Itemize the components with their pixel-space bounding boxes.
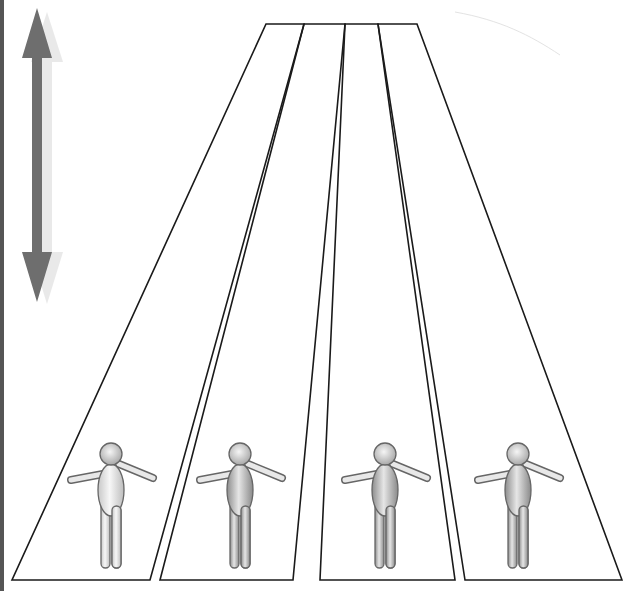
diagram-canvas [0,0,623,591]
lane-4 [378,24,622,580]
scan-mark [455,12,560,55]
figure-2-person-icon [200,443,282,568]
double-headed-arrow-icon [22,8,63,304]
figure-4-person-icon [478,443,560,568]
figure-3-person-icon [345,443,427,568]
figure-1-person-icon [71,443,153,568]
lane-1 [12,24,304,580]
